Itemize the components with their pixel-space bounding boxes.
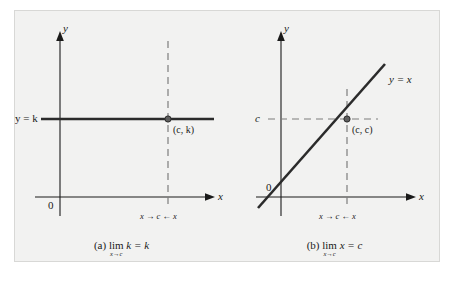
panel-b-x-axis-label: x <box>419 191 424 202</box>
figure-panel-frame: y x 0 y = k (c, k) x → c ← x (a) lim x→c… <box>14 10 440 262</box>
figure-panel-b: y x 0 c y = x (c, c) x → c ← x (b) lim x… <box>228 11 441 263</box>
panel-b-limit-subscript: x→c <box>322 250 337 257</box>
panel-b-origin-label: 0 <box>266 182 272 193</box>
figure-panel-a: y x 0 y = k (c, k) x → c ← x (a) lim x→c… <box>15 11 228 263</box>
panel-b-point-label: (c, c) <box>352 125 373 135</box>
panel-b-y-axis-label: y <box>284 23 289 34</box>
panel-b-x-axis-arrowhead <box>406 193 416 201</box>
figure-root: y x 0 y = k (c, k) x → c ← x (a) lim x→c… <box>0 0 452 281</box>
panel-a-approach-label: x → c ← x <box>140 212 177 221</box>
panel-a-x-axis-label: x <box>218 191 223 202</box>
panel-a-canvas <box>15 11 228 263</box>
panel-a-limit-subscript: x→c <box>109 250 124 257</box>
panel-b-marked-point <box>344 116 350 122</box>
panel-a-caption: (a) lim x→c k = k <box>15 239 228 251</box>
panel-a-caption-expression: k = k <box>126 239 149 251</box>
panel-a-limit-operator: lim x→c <box>109 239 124 251</box>
panel-b-function-line <box>258 64 385 208</box>
panel-a-y-axis-label: y <box>63 23 68 34</box>
panel-a-line-label: y = k <box>15 113 38 124</box>
panel-b-caption: (b) lim x→c x = c <box>228 239 441 251</box>
panel-a-origin-label: 0 <box>48 200 54 211</box>
panel-b-limit-operator: lim x→c <box>322 239 337 251</box>
panel-b-caption-prefix: (b) <box>307 239 320 251</box>
panel-a-x-axis-arrowhead <box>205 193 215 201</box>
panel-b-y-tick-label-c: c <box>255 113 260 124</box>
panel-a-marked-point <box>165 116 171 122</box>
panel-b-line-label: y = x <box>389 74 412 85</box>
panel-a-caption-prefix: (a) <box>94 239 106 251</box>
panel-a-point-label: (c, k) <box>173 125 194 135</box>
panel-b-canvas <box>228 11 441 263</box>
panel-b-approach-label: x → c ← x <box>319 212 356 221</box>
panel-b-caption-expression: x = c <box>340 239 363 251</box>
